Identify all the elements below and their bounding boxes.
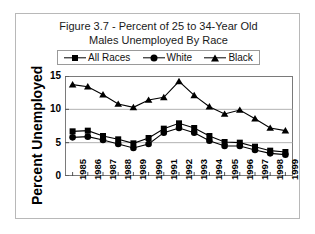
chart-legend: All Races White Black [57,50,260,65]
x-tick-label: 1985 [77,159,88,180]
x-tick-label: 1988 [122,159,133,180]
legend-item-all-races: All Races [64,52,130,63]
data-point-marker [70,128,76,134]
x-tick-label: 1989 [137,159,148,180]
legend-label-black: Black [228,52,252,63]
figure-title-line-2: Males Unemployed By Race [16,33,301,47]
x-tick-label: 1990 [153,159,164,180]
triangle-marker-icon [204,53,226,63]
figure-container: Figure 3.7 - Percent of 25 to 34-Year Ol… [15,13,300,219]
x-tick-label: 1995 [229,159,240,180]
legend-label-all-races: All Races [88,52,130,63]
data-point-marker [175,78,183,84]
data-point-marker [266,124,274,130]
data-point-marker [69,81,77,87]
square-marker-icon [64,53,86,63]
data-point-marker [161,129,168,136]
data-point-marker [100,137,107,144]
data-point-marker [115,141,122,148]
data-point-marker [237,143,244,150]
data-point-marker [282,151,289,158]
data-point-marker [99,91,107,97]
legend-item-black: Black [204,52,252,63]
y-tick-label: 0 [41,170,61,181]
circle-marker-icon [143,53,165,63]
legend-label-white: White [167,52,193,63]
data-point-marker [130,145,137,152]
data-point-marker [85,128,91,134]
x-axis-tick-labels: 1985198619871988198919901991199219931994… [65,179,293,219]
x-tick-label: 1992 [183,159,194,180]
data-point-marker [267,150,274,157]
data-point-marker [114,100,122,106]
y-tick-label: 10 [41,103,61,114]
data-point-marker [206,137,213,144]
data-point-marker [221,143,228,150]
data-point-marker [252,147,259,154]
y-tick-label: 5 [41,137,61,148]
data-point-marker [176,125,183,132]
x-tick-label: 1998 [274,159,285,180]
figure-title-line-1-visible: Figure 3.7 - Percent of 25 to 34-Year Ol… [16,19,301,33]
data-point-marker [191,129,198,136]
x-tick-label: 1986 [92,159,103,180]
y-tick-label: 15 [41,70,61,81]
x-tick-label: 1994 [213,159,224,180]
data-point-marker [146,135,152,141]
figure-title: Figure 3.7 - Percent of 25 to 34-Year Ol… [16,19,301,47]
data-point-marker [69,134,76,141]
x-tick-label: 1991 [168,159,179,180]
data-point-marker [85,133,92,140]
legend-item-white: White [143,52,193,63]
x-tick-label: 1987 [107,159,118,180]
x-tick-label: 1996 [244,159,255,180]
x-tick-label: 1997 [259,159,270,180]
data-point-marker [251,115,259,121]
x-tick-label: 1999 [289,159,300,180]
x-tick-label: 1993 [198,159,209,180]
data-point-marker [145,141,152,148]
